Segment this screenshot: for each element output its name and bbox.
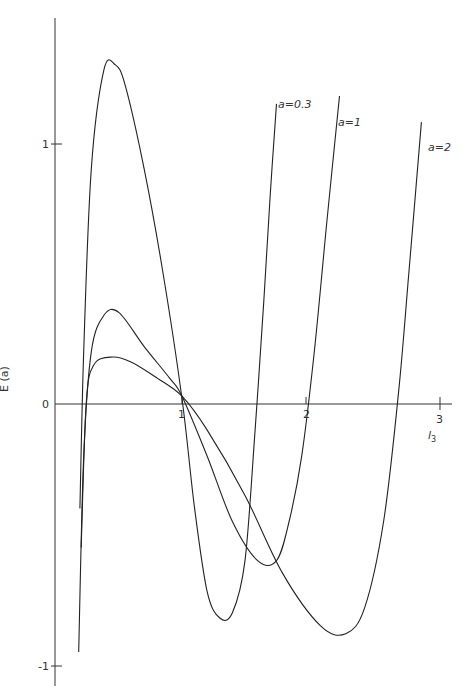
y-tick-label-0: 0 xyxy=(42,399,49,410)
x-tick-label-2: 2 xyxy=(303,409,310,420)
curve-label-a1: a=1 xyxy=(338,117,361,128)
chart-canvas xyxy=(0,0,470,698)
x-tick-label-1: 1 xyxy=(178,409,185,420)
curve-a-0-3 xyxy=(80,60,277,621)
y-axis-label: E (a) xyxy=(0,366,11,392)
curve-label-a03: a=0.3 xyxy=(278,99,311,110)
x-axis-label-sub: 3 xyxy=(431,435,436,444)
y-tick-label-1: 1 xyxy=(42,139,49,150)
x-tick-label-3: 3 xyxy=(436,414,443,425)
y-tick-label-m1: -1 xyxy=(38,661,49,672)
x-axis-label: l3 xyxy=(428,430,436,444)
curve-a-2 xyxy=(81,122,421,635)
curve-a-1 xyxy=(79,96,340,652)
curve-label-a2: a=2 xyxy=(428,142,451,153)
